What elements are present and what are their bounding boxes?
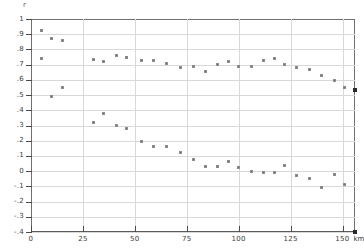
data-point — [283, 63, 286, 66]
axis-edge-marker — [353, 230, 357, 234]
gridline-horizontal — [31, 186, 355, 187]
y-axis-tick — [26, 49, 32, 50]
axis-edge-marker — [353, 88, 357, 92]
y-axis-tick-label: -.2 — [0, 198, 24, 205]
data-point — [227, 160, 230, 163]
data-point — [61, 86, 64, 89]
gridline-horizontal — [31, 232, 355, 233]
data-point — [50, 37, 53, 40]
y-axis-tick — [26, 141, 32, 142]
data-point — [262, 171, 265, 174]
gridline-horizontal — [31, 141, 355, 142]
data-point — [273, 171, 276, 174]
x-axis-tick — [239, 226, 240, 232]
x-axis-tick-label: 50 — [121, 236, 149, 243]
x-axis-tick-label: 150 — [329, 236, 357, 243]
y-axis-tick — [26, 171, 32, 172]
gridline-vertical — [291, 19, 292, 232]
data-point — [320, 186, 323, 189]
data-point — [40, 57, 43, 60]
y-axis-tick — [26, 186, 32, 187]
data-point — [308, 68, 311, 71]
y-axis-tick-label: .2 — [0, 137, 24, 144]
data-point — [125, 56, 128, 59]
data-point — [204, 70, 207, 73]
data-point — [165, 145, 168, 148]
data-point — [102, 60, 105, 63]
data-point — [237, 166, 240, 169]
data-point — [333, 173, 336, 176]
gridline-vertical — [83, 19, 84, 232]
y-axis-tick-label: .8 — [0, 46, 24, 53]
data-point — [308, 177, 311, 180]
y-axis-tick-label: -.4 — [0, 229, 24, 236]
data-point — [152, 59, 155, 62]
y-axis-tick-label: .7 — [0, 61, 24, 68]
data-point — [40, 29, 43, 32]
y-axis-tick-label: 0 — [0, 168, 24, 175]
gridline-horizontal — [31, 95, 355, 96]
data-point — [165, 62, 168, 65]
gridline-horizontal — [31, 34, 355, 35]
data-point — [295, 66, 298, 69]
y-axis-tick — [26, 156, 32, 157]
y-axis-tick-label: .9 — [0, 31, 24, 38]
x-axis-tick-label: 125 — [277, 236, 305, 243]
y-axis-tick-label: .6 — [0, 76, 24, 83]
gridline-vertical — [135, 19, 136, 232]
gridline-horizontal — [31, 80, 355, 81]
x-axis-tick — [187, 226, 188, 232]
data-point — [250, 65, 253, 68]
y-axis-tick-label: .1 — [0, 152, 24, 159]
data-point — [204, 165, 207, 168]
y-axis-tick — [26, 19, 32, 20]
gridline-horizontal — [31, 217, 355, 218]
data-point — [179, 151, 182, 154]
data-point — [237, 65, 240, 68]
data-point — [92, 121, 95, 124]
y-axis-tick — [26, 232, 32, 233]
data-point — [283, 164, 286, 167]
data-point — [320, 74, 323, 77]
y-axis-tick — [26, 217, 32, 218]
data-point — [115, 124, 118, 127]
data-point — [273, 57, 276, 60]
y-axis-tick-label: .3 — [0, 122, 24, 129]
data-point — [333, 79, 336, 82]
y-axis-tick — [26, 110, 32, 111]
data-point — [343, 86, 346, 89]
x-axis-tick-label: 75 — [173, 236, 201, 243]
gridline-horizontal — [31, 202, 355, 203]
data-point — [92, 58, 95, 61]
x-axis-tick — [291, 226, 292, 232]
x-axis-tick-label: 25 — [69, 236, 97, 243]
y-axis-tick — [26, 65, 32, 66]
y-axis-tick — [26, 95, 32, 96]
data-point — [192, 65, 195, 68]
y-axis-tick-label: .4 — [0, 107, 24, 114]
data-point — [227, 60, 230, 63]
data-point — [250, 170, 253, 173]
y-axis-tick-label: -.1 — [0, 183, 24, 190]
data-point — [192, 158, 195, 161]
gridline-horizontal — [31, 126, 355, 127]
data-point — [295, 174, 298, 177]
data-point — [50, 95, 53, 98]
plot-area — [31, 19, 355, 232]
data-point — [262, 59, 265, 62]
data-point — [179, 66, 182, 69]
gridline-vertical — [343, 19, 344, 232]
data-point — [140, 59, 143, 62]
x-axis-tick — [83, 226, 84, 232]
data-point — [115, 54, 118, 57]
gridline-vertical — [239, 19, 240, 232]
gridline-horizontal — [31, 171, 355, 172]
x-axis-tick-label: 100 — [225, 236, 253, 243]
data-point — [216, 165, 219, 168]
y-axis-tick-label: 1 — [0, 16, 24, 23]
gridline-vertical — [187, 19, 188, 232]
data-point — [152, 145, 155, 148]
y-axis-label: r — [23, 2, 26, 9]
data-point — [102, 112, 105, 115]
data-point — [216, 63, 219, 66]
